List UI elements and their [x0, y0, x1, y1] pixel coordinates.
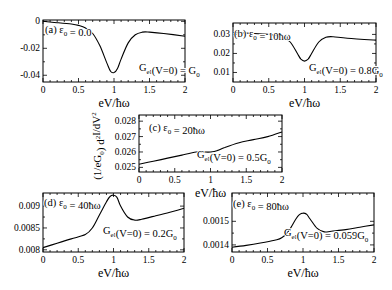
panel-a: 00.511.520-0.02-0.04(a) ε0 = 0.0Gel(V=0)…: [20, 16, 200, 110]
y-tick-label: 0.009: [19, 201, 41, 211]
x-tick-label: 1.5: [144, 85, 156, 95]
x-tick-label: 1: [302, 85, 307, 95]
panel-annotation: (a) ε0 = 0.0: [45, 24, 92, 38]
x-tick-label: 2: [182, 255, 187, 265]
y-tick-label: 0.01: [213, 67, 230, 77]
panel-annotation: (d) ε0 = 40ħω: [44, 197, 101, 211]
panel-c: 00.511.520.0280.0270.0260.025(c) ε0 = 20…: [115, 115, 285, 200]
x-tick-label: 1: [111, 255, 116, 265]
panel-annotation: (e) ε0 = 80ħω: [233, 198, 289, 212]
x-tick-label: 2: [183, 85, 188, 95]
y-tick-label: 0.026: [115, 147, 137, 157]
y-tick-label: 0.028: [115, 116, 137, 126]
y-axis-label: (1/eG0) d2I/dV2: [90, 112, 107, 180]
x-tick-label: 0: [231, 85, 236, 95]
y-tick-label: 0.0085: [14, 223, 40, 233]
y-tick-label: 0.027: [115, 132, 137, 142]
y-tick-label: 0.0015: [203, 216, 229, 226]
conductance-label: Gel(V=0) = 0.059G0: [284, 227, 369, 244]
x-axis-label: eV/ħω: [195, 186, 226, 200]
x-tick-label: 2: [280, 175, 285, 185]
x-tick-label: 0: [41, 85, 46, 95]
x-tick-label: 0.5: [262, 255, 274, 265]
x-tick-label: 0.5: [72, 255, 84, 265]
x-tick-label: 1.5: [334, 85, 346, 95]
conductance-label: Gel(V=0) = 0.8G0: [309, 62, 383, 79]
x-tick-label: 1: [208, 175, 213, 185]
y-tick-label: -0.04: [20, 70, 40, 80]
conductance-label: Gel(V=0) = 0.2G0: [103, 225, 177, 242]
panel-annotation: (c) ε0 = 20ħω: [149, 122, 205, 136]
x-axis-label: eV/ħω: [287, 266, 318, 280]
x-tick-label: 1: [112, 85, 117, 95]
panel-annotation: (b) ε0 = 10ħω: [234, 28, 291, 42]
y-tick-label: 0.0014: [203, 240, 229, 250]
panel-e: 00.511.520.00150.0014(e) ε0 = 80ħωGel(V=…: [203, 193, 377, 280]
x-tick-label: 0: [230, 255, 235, 265]
x-tick-label: 0: [137, 175, 142, 185]
y-tick-label: -0.02: [20, 43, 40, 53]
x-tick-label: 0.5: [73, 85, 85, 95]
x-axis-label: eV/ħω: [98, 96, 129, 110]
figure: 00.511.520-0.02-0.04(a) ε0 = 0.0Gel(V=0)…: [0, 0, 392, 290]
panel-d: 00.511.520.0090.00850.008(d) ε0 = 40ħωGe…: [14, 193, 187, 280]
x-tick-label: 1: [301, 255, 306, 265]
x-tick-label: 1.5: [143, 255, 155, 265]
x-axis-label: eV/ħω: [289, 96, 320, 110]
y-tick-label: 0.03: [213, 29, 230, 39]
y-tick-label: 0.025: [115, 162, 137, 172]
y-tick-label: 0: [35, 16, 40, 26]
x-tick-label: 0.5: [263, 85, 275, 95]
x-tick-label: 0.5: [169, 175, 181, 185]
x-tick-label: 1.5: [240, 175, 252, 185]
x-axis-label: eV/ħω: [98, 266, 129, 280]
panel-b: 00.511.520.030.020.01(b) ε0 = 10ħωGel(V=…: [213, 23, 383, 110]
x-tick-label: 2: [372, 255, 377, 265]
plot-frame: [43, 193, 184, 252]
y-tick-label: 0.008: [19, 245, 41, 255]
plot-frame: [232, 193, 374, 252]
x-tick-label: 1.5: [333, 255, 345, 265]
x-tick-label: 2: [374, 85, 379, 95]
x-tick-label: 0: [41, 255, 46, 265]
y-tick-label: 0.02: [213, 48, 230, 58]
conductance-label: Gel(V=0) = G0: [139, 62, 200, 79]
